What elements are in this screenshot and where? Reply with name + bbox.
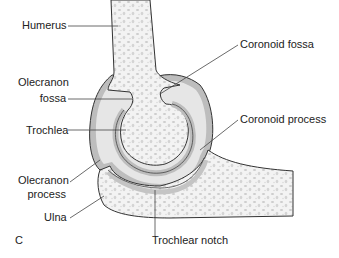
label-humerus: Humerus: [22, 19, 67, 32]
label-coronoid-process: Coronoid process: [240, 113, 326, 126]
label-coronoid-fossa: Coronoid fossa: [240, 38, 314, 51]
label-olecranon-process-line1: Olecranon: [18, 174, 66, 187]
label-olecranon-fossa-line2: fossa: [18, 92, 66, 105]
panel-letter: C: [15, 234, 23, 247]
elbow-joint-diagram: Humerus Olecranon fossa Trochlea Olecran…: [0, 0, 339, 258]
label-trochlea: Trochlea: [26, 124, 68, 137]
label-ulna: Ulna: [44, 211, 67, 224]
label-olecranon-process-line2: process: [18, 188, 66, 201]
label-olecranon-fossa-line1: Olecranon: [18, 76, 66, 89]
label-trochlear-notch: Trochlear notch: [152, 234, 228, 247]
